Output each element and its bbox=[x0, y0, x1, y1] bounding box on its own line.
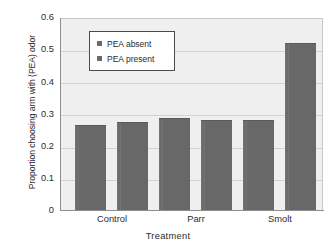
plot-area: PEA absent PEA present bbox=[60, 18, 323, 211]
y-axis-line bbox=[60, 18, 61, 211]
x-tick-label-smolt: Smolt bbox=[236, 214, 324, 224]
bar-control-pea-absent bbox=[75, 125, 106, 210]
chart-legend: PEA absent PEA present bbox=[89, 31, 175, 71]
y-tick-label: 0.1 bbox=[22, 174, 54, 183]
legend-label: PEA present bbox=[107, 54, 154, 64]
y-tick-label: 0.4 bbox=[22, 78, 54, 87]
bar-smolt-pea-absent bbox=[243, 120, 274, 210]
x-tick-label-parr: Parr bbox=[152, 214, 240, 224]
x-axis-line bbox=[60, 210, 324, 211]
bar-control-pea-present bbox=[117, 122, 148, 210]
bar-parr-pea-present bbox=[201, 120, 232, 210]
legend-item-pea-present: PEA present bbox=[97, 51, 174, 66]
y-tick-label: 0.5 bbox=[22, 45, 54, 54]
y-tick-label: 0.6 bbox=[22, 13, 54, 22]
bar-smolt-pea-present bbox=[285, 43, 316, 210]
bar-chart: Proportion choosing arm with (PEA) odor … bbox=[0, 0, 336, 251]
x-axis-title: Treatment bbox=[0, 231, 336, 241]
y-tick-label: 0 bbox=[22, 206, 54, 215]
bar-parr-pea-absent bbox=[159, 118, 190, 210]
x-axis-labels: Control Parr Smolt bbox=[60, 214, 323, 230]
y-tick-label: 0.3 bbox=[22, 110, 54, 119]
y-axis-ticks: 0.6 0.5 0.4 0.3 0.2 0.1 0 bbox=[22, 0, 54, 251]
gridline-0.3 bbox=[61, 115, 322, 116]
x-tick-label-control: Control bbox=[68, 214, 156, 224]
legend-item-pea-absent: PEA absent bbox=[97, 36, 174, 51]
y-tick-label: 0.2 bbox=[22, 142, 54, 151]
legend-swatch-icon bbox=[97, 41, 102, 46]
gridline-0.4 bbox=[61, 83, 322, 84]
legend-label: PEA absent bbox=[107, 39, 151, 49]
legend-swatch-icon bbox=[97, 56, 102, 61]
